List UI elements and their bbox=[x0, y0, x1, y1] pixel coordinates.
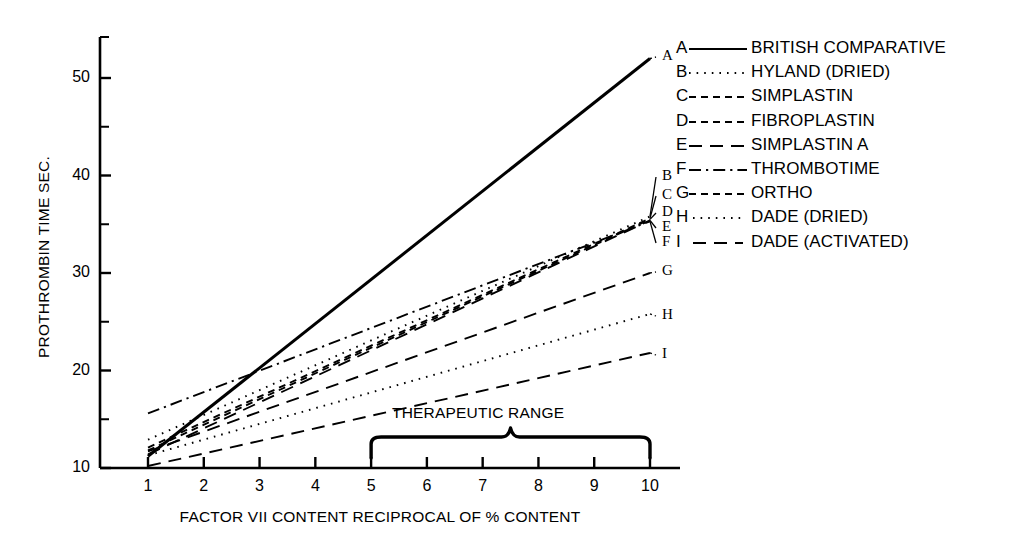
legend: ABRITISH COMPARATIVEBHYLAND (DRIED)CSIMP… bbox=[676, 36, 1006, 254]
legend-label-f: THROMBOTIME bbox=[751, 159, 880, 179]
x-tick-label: 5 bbox=[358, 477, 384, 495]
legend-label-c: SIMPLASTIN bbox=[751, 86, 853, 106]
legend-line-sample-i bbox=[689, 234, 751, 250]
x-tick-label: 6 bbox=[414, 477, 440, 495]
legend-row-f[interactable]: FTHROMBOTIME bbox=[676, 157, 1006, 181]
axes bbox=[100, 37, 680, 468]
legend-key-b: B bbox=[676, 62, 689, 82]
legend-line-sample-h bbox=[689, 209, 751, 225]
legend-key-g: G bbox=[676, 183, 689, 203]
x-tick-label: 9 bbox=[581, 477, 607, 495]
legend-label-i: DADE (ACTIVATED) bbox=[751, 232, 909, 252]
legend-key-e: E bbox=[676, 135, 689, 155]
curve-g bbox=[148, 273, 650, 451]
legend-label-h: DADE (DRIED) bbox=[751, 207, 868, 227]
legend-key-c: C bbox=[676, 86, 689, 106]
legend-label-g: ORTHO bbox=[751, 183, 813, 203]
legend-row-i[interactable]: IDADE (ACTIVATED) bbox=[676, 230, 1006, 254]
legend-key-d: D bbox=[676, 111, 689, 131]
legend-row-g[interactable]: GORTHO bbox=[676, 181, 1006, 205]
leader-line-a bbox=[650, 57, 656, 59]
legend-key-f: F bbox=[676, 159, 689, 179]
curve-a bbox=[148, 59, 650, 457]
y-axis-title: PROTHROMBIN TIME SEC. bbox=[35, 127, 53, 387]
x-tick-label: 4 bbox=[302, 477, 328, 495]
legend-line-sample-a bbox=[689, 40, 751, 56]
x-tick-label: 7 bbox=[470, 477, 496, 495]
leader-line-g bbox=[650, 272, 656, 273]
curve-end-label-g: G bbox=[662, 262, 682, 279]
x-tick-label: 1 bbox=[135, 477, 161, 495]
legend-row-e[interactable]: ESIMPLASTIN A bbox=[676, 133, 1006, 157]
legend-line-sample-f bbox=[689, 161, 751, 177]
therapeutic-range-label: THERAPEUTIC RANGE bbox=[392, 404, 564, 422]
legend-label-d: FIBROPLASTIN bbox=[751, 111, 875, 131]
x-tick-label: 8 bbox=[525, 477, 551, 495]
legend-row-a[interactable]: ABRITISH COMPARATIVE bbox=[676, 36, 1006, 60]
legend-row-c[interactable]: CSIMPLASTIN bbox=[676, 84, 1006, 108]
y-tick-label: 10 bbox=[56, 458, 90, 476]
therapeutic-range-brace bbox=[371, 428, 650, 458]
y-tick-label: 50 bbox=[56, 68, 90, 86]
legend-row-d[interactable]: DFIBROPLASTIN bbox=[676, 109, 1006, 133]
legend-line-sample-e bbox=[689, 137, 751, 153]
brace-path bbox=[371, 428, 650, 458]
legend-label-b: HYLAND (DRIED) bbox=[751, 62, 890, 82]
y-tick-label: 40 bbox=[56, 166, 90, 184]
legend-line-sample-g bbox=[689, 185, 751, 201]
curve-leader-lines bbox=[650, 57, 656, 355]
legend-label-a: BRITISH COMPARATIVE bbox=[751, 38, 946, 58]
legend-line-sample-b bbox=[689, 64, 751, 80]
legend-key-a: A bbox=[676, 38, 689, 58]
leader-line-h bbox=[650, 314, 656, 316]
leader-line-i bbox=[650, 353, 656, 355]
x-tick-label: 3 bbox=[247, 477, 273, 495]
x-tick-label: 10 bbox=[637, 477, 663, 495]
leader-line-b bbox=[650, 177, 656, 216]
legend-line-sample-c bbox=[689, 88, 751, 104]
x-tick-label: 2 bbox=[191, 477, 217, 495]
y-tick-label: 30 bbox=[56, 263, 90, 281]
legend-line-sample-d bbox=[689, 113, 751, 129]
curve-end-label-h: H bbox=[662, 306, 682, 323]
legend-row-b[interactable]: BHYLAND (DRIED) bbox=[676, 60, 1006, 84]
x-axis-title: FACTOR VII CONTENT RECIPROCAL OF % CONTE… bbox=[110, 508, 650, 526]
y-tick-label: 20 bbox=[56, 361, 90, 379]
legend-key-i: I bbox=[676, 232, 689, 252]
curve-f bbox=[148, 221, 650, 413]
legend-key-h: H bbox=[676, 207, 689, 227]
legend-row-h[interactable]: HDADE (DRIED) bbox=[676, 205, 1006, 229]
chart-figure: PROTHROMBIN TIME SEC. FACTOR VII CONTENT… bbox=[0, 0, 1011, 537]
curve-end-label-i: I bbox=[662, 345, 682, 362]
legend-label-e: SIMPLASTIN A bbox=[751, 135, 868, 155]
